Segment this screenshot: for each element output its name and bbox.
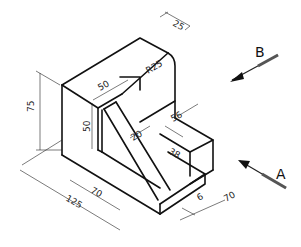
isometric-drawing: 75 50 50 25 R25 56 20 38 70 125 6 70 B A	[0, 0, 301, 247]
dim-70-right: 70	[222, 189, 237, 204]
dim-50-vertical: 50	[82, 120, 92, 132]
dim-70-left: 70	[89, 185, 104, 200]
dim-75: 75	[26, 101, 36, 112]
dim-r25: R25	[144, 58, 164, 76]
dim-6: 6	[195, 191, 205, 203]
dim-50-top: 50	[96, 78, 111, 93]
dim-125: 125	[64, 193, 84, 210]
view-arrow-b: B	[230, 44, 278, 82]
dim-25: 25	[171, 18, 186, 32]
label-a: A	[276, 166, 286, 182]
view-arrow-a: A	[238, 160, 286, 188]
dimension-lines	[20, 12, 225, 230]
label-b: B	[255, 44, 265, 60]
dim-20: 20	[129, 128, 144, 143]
